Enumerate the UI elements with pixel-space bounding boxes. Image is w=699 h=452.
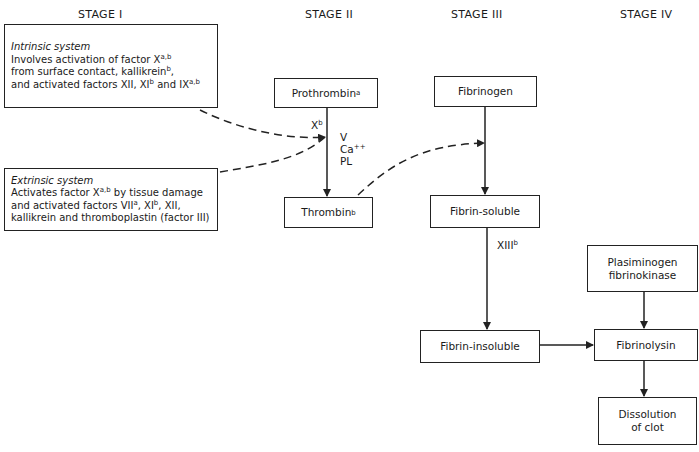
factor-xiii-label: XIIIb [497,239,518,251]
fibrin-insoluble-node: Fibrin-insoluble [420,330,540,363]
intrinsic-line-3: and activated factors XII, XIb and IXa,b [11,79,211,92]
fibrin-soluble-node: Fibrin-soluble [430,195,540,228]
extrinsic-line-1: Activates factor Xa,b by tissue damage [11,187,211,200]
intrinsic-title: Intrinsic system [11,41,211,54]
thrombin-node: Thrombinb [284,197,373,228]
intrinsic-line-1: Involves activation of factor Xa,b [11,54,211,67]
extrinsic-line-3: kallikrein and thromboplastin (factor II… [11,212,211,225]
fibrinogen-node: Fibrinogen [434,76,537,107]
plasminogen-node: Plasiminogen fibrinokinase [587,245,698,292]
fibrinolysin-node: Fibrinolysin [594,329,698,361]
cofactor-v-label: V [340,131,347,143]
prothrombin-node: Prothrombina [274,78,378,108]
extrinsic-title: Extrinsic system [11,175,211,188]
cofactor-pl-label: PL [340,155,352,167]
extrinsic-system-box: Extrinsic system Activates factor Xa,b b… [4,168,218,231]
intrinsic-system-box: Intrinsic system Involves activation of … [4,24,218,108]
factor-xb-label: Xb [311,119,323,131]
extrinsic-line-2: and activated factors VIIa, XIb, XII, [11,200,211,213]
intrinsic-line-2: from surface contact, kallikreinb, [11,66,211,79]
dissolution-node: Dissolution of clot [598,397,697,445]
cofactor-ca-label: Ca++ [340,143,366,155]
